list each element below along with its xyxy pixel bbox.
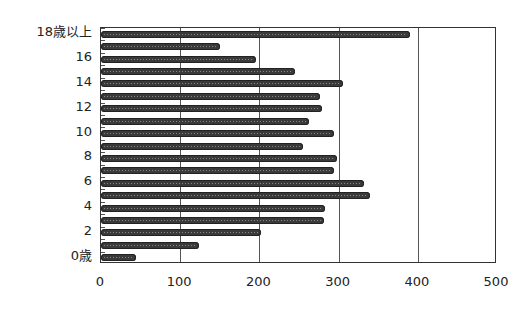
y-tick-label: 14 (75, 75, 92, 89)
gridline (418, 28, 419, 262)
x-tick-label: 300 (325, 274, 350, 289)
y-tick (101, 115, 105, 116)
bar (101, 56, 256, 63)
y-tick (101, 28, 105, 29)
y-tick (101, 53, 105, 54)
y-tick-label: 12 (75, 100, 92, 114)
bar (101, 242, 199, 249)
y-tick-label: 8 (84, 149, 92, 163)
bar (101, 167, 334, 174)
y-tick-label: 4 (84, 199, 92, 213)
y-tick (101, 165, 105, 166)
bar (101, 143, 303, 150)
y-tick (101, 78, 105, 79)
x-tick-label: 500 (484, 274, 509, 289)
bar (101, 31, 410, 38)
bar (101, 205, 325, 212)
y-tick-label: 2 (84, 224, 92, 238)
x-tick-label: 200 (246, 274, 271, 289)
gridline (339, 28, 340, 262)
y-tick (101, 140, 105, 141)
bar (101, 68, 295, 75)
y-tick-label: 0歳 (71, 249, 92, 263)
y-tick (101, 127, 105, 128)
bar (101, 254, 136, 261)
bar (101, 130, 334, 137)
y-tick (101, 189, 105, 190)
y-tick-label: 10 (75, 125, 92, 139)
y-tick (101, 90, 105, 91)
y-tick-label: 18歳以上 (36, 25, 92, 39)
bar (101, 105, 322, 112)
y-tick-label: 6 (84, 174, 92, 188)
bar (101, 192, 370, 199)
y-tick (101, 177, 105, 178)
y-tick (101, 40, 105, 41)
bar (101, 180, 364, 187)
bar (101, 80, 343, 87)
y-tick-label: 16 (75, 50, 92, 64)
x-tick-label: 0 (96, 274, 104, 289)
y-tick (101, 252, 105, 253)
bar (101, 118, 309, 125)
bar (101, 43, 220, 50)
y-tick (101, 214, 105, 215)
x-tick-label: 400 (404, 274, 429, 289)
bar (101, 229, 261, 236)
bar (101, 93, 320, 100)
y-tick (101, 103, 105, 104)
bar (101, 155, 337, 162)
y-tick (101, 152, 105, 153)
bar (101, 217, 324, 224)
y-tick (101, 65, 105, 66)
x-tick-label: 100 (167, 274, 192, 289)
y-tick (101, 202, 105, 203)
y-tick (101, 239, 105, 240)
plot-area (100, 27, 496, 263)
y-tick (101, 227, 105, 228)
